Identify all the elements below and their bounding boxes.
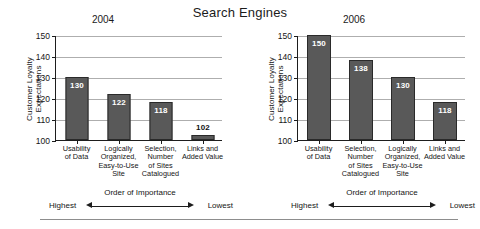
bar[interactable]: 138 [349, 60, 373, 140]
bar-slot: 130 [382, 36, 424, 140]
y-tick-label: 120 [28, 95, 50, 103]
y-tick-label: 110 [28, 116, 50, 124]
order-axis-line [333, 206, 431, 207]
plot-area-2004: Customer Loyalty Expectations 150 140 13… [55, 36, 222, 141]
bar-series-2004: 130 122 118 [56, 36, 222, 140]
order-axis-title: Order of Importance [55, 188, 225, 197]
bar-value-label: 130 [392, 81, 414, 90]
figure: Search Engines 2004 Customer Loyalty Exp… [0, 0, 480, 229]
bar-slot: 102 [182, 36, 224, 140]
y-tick-label: 130 [28, 74, 50, 82]
arrow-left-icon [328, 202, 334, 208]
y-tick-label: 110 [270, 116, 292, 124]
bar[interactable]: 130 [391, 77, 415, 140]
chart-panel-2004: 2004 Customer Loyalty Expectations 150 1… [0, 0, 240, 229]
panel-year-label: 2004 [0, 14, 223, 25]
y-tick-label: 100 [28, 137, 50, 145]
y-axis-title: Customer Loyalty Expectations [25, 33, 43, 145]
bar[interactable]: 150 [307, 35, 331, 140]
y-tick [294, 141, 298, 142]
y-tick-label: 100 [270, 137, 292, 145]
bar-slot: 138 [340, 36, 382, 140]
y-tick-label: 120 [270, 95, 292, 103]
bar-value-label: 150 [308, 39, 330, 48]
panel-year-label: 2006 [234, 14, 474, 25]
x-category-label: Links andAdded Value [417, 145, 472, 162]
y-axis-title: Customer Loyalty Expectations [267, 33, 285, 145]
bar-slot: 150 [298, 36, 340, 140]
chart-panel-2006: 2006 Customer Loyalty Expectations 150 1… [240, 0, 480, 229]
arrow-right-icon [430, 202, 436, 208]
order-highest-label: Highest [291, 201, 318, 210]
order-highest-label: Highest [49, 201, 76, 210]
bar-value-label: 102 [193, 123, 214, 132]
bar-value-label: 138 [350, 64, 372, 73]
order-axis-title: Order of Importance [297, 188, 467, 197]
x-category-label: Links andAdded Value [175, 145, 230, 162]
bar-value-label: 122 [109, 98, 130, 107]
arrow-right-icon [188, 202, 194, 208]
y-tick-label: 150 [270, 32, 292, 40]
y-tick-label: 140 [270, 53, 292, 61]
bar-slot: 118 [424, 36, 466, 140]
order-lowest-label: Lowest [208, 201, 233, 210]
bar[interactable]: 130 [66, 77, 89, 140]
bar-slot: 118 [140, 36, 182, 140]
bar-value-label: 118 [151, 106, 172, 115]
bar-slot: 130 [56, 36, 98, 140]
arrow-left-icon [86, 202, 92, 208]
bottom-divider [40, 219, 458, 220]
bar-series-2006: 150 138 130 [298, 36, 465, 140]
order-lowest-label: Lowest [450, 201, 475, 210]
order-axis-line [91, 206, 189, 207]
bar[interactable]: 122 [108, 94, 131, 140]
y-tick-label: 130 [270, 74, 292, 82]
plot-area-2006: Customer Loyalty Expectations 150 140 13… [297, 36, 465, 141]
bar[interactable]: 118 [150, 102, 173, 140]
bar-value-label: 118 [434, 106, 456, 115]
order-of-importance-axis: Order of Importance Highest Lowest [55, 190, 225, 216]
bar-slot: 122 [98, 36, 140, 140]
y-tick [52, 141, 56, 142]
bar[interactable]: 118 [433, 102, 457, 140]
bar-value-label: 130 [67, 81, 88, 90]
order-of-importance-axis: Order of Importance Highest Lowest [297, 190, 467, 216]
y-tick-label: 150 [28, 32, 50, 40]
y-tick-label: 140 [28, 53, 50, 61]
